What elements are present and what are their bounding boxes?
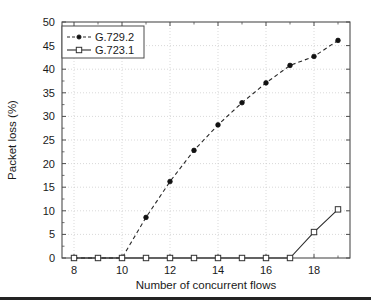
x-tick-label: 16 [260,264,272,276]
y-tick-label: 0 [49,252,55,264]
data-point-marker-open [311,229,316,234]
data-point-marker-open [191,255,196,260]
y-tick-label: 30 [43,110,55,122]
data-point-marker-open [71,255,76,260]
x-tick-label: 10 [116,264,128,276]
data-point-marker-open [263,255,268,260]
data-point-marker-filled [264,81,269,86]
data-point-marker-open [167,255,172,260]
data-point-marker-open [287,255,292,260]
y-tick-label: 20 [43,158,55,170]
x-axis-tick-labels: 81012141618 [71,264,320,276]
figure-container: 05101520253035404550 81012141618 Number … [0,0,371,307]
x-tick-label: 8 [71,264,77,276]
data-point-marker-open [143,255,148,260]
y-tick-label: 45 [43,40,55,52]
data-point-marker-filled [192,148,197,153]
y-tick-label: 50 [43,16,55,28]
x-tick-label: 18 [308,264,320,276]
y-tick-label: 5 [49,228,55,240]
data-point-marker-open [239,255,244,260]
y-axis-title: Packet loss (%) [6,100,18,180]
y-tick-label: 10 [43,205,55,217]
chart-legend: G.729.2 G.723.1 [62,26,144,58]
y-tick-label: 15 [43,181,55,193]
legend-open-square-icon [76,47,81,52]
data-point-marker-filled [216,123,221,128]
data-point-marker-filled [144,215,149,220]
x-axis-title: Number of concurrent flows [136,279,277,291]
y-tick-label: 40 [43,63,55,75]
legend-label-g7292: G.729.2 [95,31,134,43]
data-point-marker-filled [240,100,245,105]
figure-bottom-rule [0,297,371,300]
legend-filled-circle-icon [77,35,81,39]
data-point-marker-open [335,207,340,212]
data-point-marker-filled [312,54,317,59]
data-point-marker-open [95,255,100,260]
y-tick-label: 35 [43,87,55,99]
y-tick-label: 25 [43,134,55,146]
data-point-marker-filled [288,63,293,68]
data-point-marker-filled [168,179,173,184]
data-point-marker-open [119,255,124,260]
data-point-marker-filled [336,38,341,43]
data-point-marker-open [215,255,220,260]
x-tick-label: 14 [212,264,224,276]
legend-label-g7231: G.723.1 [95,44,134,56]
y-axis-tick-labels: 05101520253035404550 [43,16,55,264]
packet-loss-line-chart: 05101520253035404550 81012141618 Number … [0,0,371,307]
x-tick-label: 12 [164,264,176,276]
